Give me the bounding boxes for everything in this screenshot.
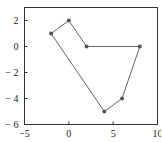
axes-frame (25, 8, 158, 125)
x-tick-label: 10 (153, 128, 162, 139)
data-point (120, 97, 124, 101)
chart: −50510 20− 2− 4− 6 (0, 0, 161, 142)
data-point (67, 19, 71, 23)
data-point (102, 110, 106, 114)
y-tick-label: 2 (14, 15, 19, 26)
y-tick-label: − 2 (5, 67, 18, 78)
y-tick-label: − 6 (5, 119, 18, 130)
data-point (49, 32, 53, 36)
x-tick-label: 5 (111, 128, 116, 139)
data-point (85, 45, 89, 49)
x-tick-label: −5 (19, 128, 30, 139)
y-tick-label: − 4 (5, 93, 18, 104)
plot-area (49, 19, 142, 114)
series-line (51, 21, 140, 112)
y-tick-label: 0 (14, 41, 19, 52)
data-point (138, 45, 142, 49)
x-tick-label: 0 (66, 128, 71, 139)
